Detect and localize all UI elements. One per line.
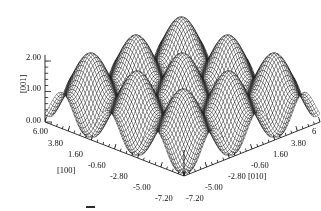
y-tick-label-3: -0.60 [251,161,269,170]
x-tick-label-1: 3.80 [48,139,63,148]
z-tick-label-2: 2.00 [26,53,41,62]
x-tick-label-2: 1.60 [68,150,83,159]
y-tick-label-5: 3.80 [291,139,306,148]
x-tick-label-4: -2.80 [110,172,128,181]
x-tick-label-0: 6.00 [33,127,48,136]
x-tick-label-3: -0.60 [88,161,106,170]
x-tick-label-6: -7.20 [155,194,173,203]
z-tick-label-0: 0.00 [26,116,41,125]
surface-plot-figure: 2.00 1.00 0.00 [001] 6.00 3.80 1.60 -0.6… [0,0,321,211]
z-axis-title: [001] [19,75,28,93]
x-axis-title: [100] [57,166,75,175]
y-tick-label-1: -5.00 [205,183,223,192]
y-axis-title: [010] [248,172,266,181]
y-tick-label-6: 6 [312,127,316,136]
surface-mesh-canvas [0,0,321,211]
z-tick-label-1: 1.00 [26,84,41,93]
y-tick-label-2: -2.80 [228,172,246,181]
y-tick-label-0: -7.20 [186,194,204,203]
cropped-caption-mark [86,206,95,208]
x-tick-label-5: -5.00 [133,183,151,192]
y-tick-label-4: 1.60 [273,150,288,159]
